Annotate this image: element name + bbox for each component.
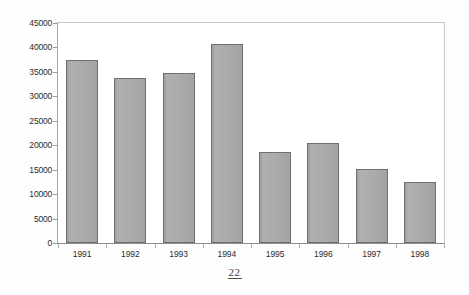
y-tick-label: 30000: [0, 92, 52, 101]
x-tick-mark: [203, 244, 204, 248]
x-tick-label-1992: 1992: [106, 249, 154, 260]
x-tick-label-1998: 1998: [396, 249, 444, 260]
page-number-value: 22: [228, 266, 242, 279]
bar-1994: [211, 44, 243, 243]
y-tick-label: 25000: [0, 116, 52, 125]
x-tick-label-1996: 1996: [299, 249, 347, 260]
document-page: 0500010000150002000025000300003500040000…: [0, 0, 469, 295]
x-tick-mark: [348, 244, 349, 248]
y-tick-label: 10000: [0, 190, 52, 199]
y-tick-label: 5000: [0, 214, 52, 223]
y-tick-label: 20000: [0, 141, 52, 150]
x-tick-label-1995: 1995: [251, 249, 299, 260]
y-tick-label: 15000: [0, 165, 52, 174]
bar-1998: [404, 182, 436, 243]
bar-1991: [66, 60, 98, 243]
y-tick-label: 35000: [0, 67, 52, 76]
x-tick-label-1991: 1991: [58, 249, 106, 260]
x-tick-mark: [444, 244, 445, 248]
x-tick-label-1994: 1994: [203, 249, 251, 260]
x-tick-mark: [106, 244, 107, 248]
x-tick-label-1993: 1993: [155, 249, 203, 260]
y-tick-label: 45000: [0, 19, 52, 28]
bar-1992: [114, 78, 146, 243]
x-axis: 19911992199319941995199619971998: [0, 249, 469, 265]
y-tick-label: 40000: [0, 43, 52, 52]
x-tick-mark: [58, 244, 59, 248]
bar-1995: [259, 152, 291, 243]
x-tick-label-1997: 1997: [348, 249, 396, 260]
x-tick-mark: [299, 244, 300, 248]
x-tick-mark: [396, 244, 397, 248]
x-tick-mark: [155, 244, 156, 248]
bar-1996: [307, 143, 339, 243]
bars-container: [58, 23, 444, 243]
bar-1993: [163, 73, 195, 243]
bar-chart: 0500010000150002000025000300003500040000…: [0, 0, 469, 262]
y-axis: 0500010000150002000025000300003500040000…: [0, 0, 52, 262]
bar-1997: [356, 169, 388, 243]
page-number: 22: [0, 266, 469, 278]
y-tick-label: 0: [0, 239, 52, 248]
x-tick-mark: [251, 244, 252, 248]
